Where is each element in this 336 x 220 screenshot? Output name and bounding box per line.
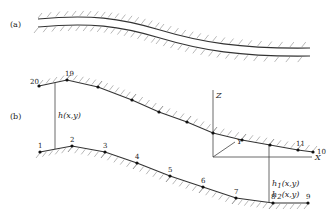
svg-text:h1(x,y): h1(x,y) [272, 179, 299, 190]
mesh-node [306, 201, 309, 204]
mesh-node [130, 98, 133, 101]
node-label: 1 [38, 142, 42, 150]
mesh-node [268, 143, 271, 146]
node-label: 6 [201, 177, 206, 185]
mesh-node [201, 185, 204, 188]
aperture-label: h(x,y) [58, 111, 81, 120]
mesh-node [65, 78, 68, 81]
lower-surface-hatching [36, 147, 308, 209]
mesh-node [70, 144, 73, 147]
node-label: 4 [135, 153, 140, 161]
panel-a-label: (a) [10, 20, 21, 29]
mesh-node [157, 110, 160, 113]
node-label: 19 [65, 70, 74, 78]
z-axis-label: Z [215, 91, 222, 100]
node-label: 9 [306, 193, 310, 201]
mesh-node [311, 150, 314, 153]
node-label: 7 [234, 188, 238, 196]
mesh-node [240, 138, 243, 141]
node-label: 2 [70, 136, 74, 144]
mesh-node [211, 131, 214, 134]
mesh-node [168, 174, 171, 177]
node-label: 5 [168, 166, 172, 174]
node-label: 8 [271, 193, 275, 201]
y-axis [213, 142, 235, 157]
mesh-node [271, 201, 274, 204]
svg-text:h2(x,y): h2(x,y) [272, 190, 299, 201]
node-label: 10 [317, 148, 326, 156]
wall-hatching [34, 11, 306, 62]
fracture-diagram: (a) (b) h(x,y) Z X Y h1(x,y) h2(x,y) 201… [0, 0, 336, 220]
mesh-node [185, 120, 188, 123]
h1-label: h1(x,y) [272, 179, 299, 190]
node-label: 3 [103, 142, 107, 150]
lower-wall-curve [38, 25, 310, 56]
mesh-node [135, 161, 138, 164]
mesh-node [296, 148, 299, 151]
node-label: 20 [30, 78, 39, 86]
mesh-node [103, 150, 106, 153]
mesh-node [234, 196, 237, 199]
mesh-node [38, 150, 41, 153]
panel-b-label: (b) [10, 112, 21, 121]
node-label: 11 [296, 140, 305, 148]
mesh-node [96, 85, 99, 88]
lower-surface-polyline [40, 146, 308, 203]
h2-label: h2(x,y) [272, 190, 299, 201]
smooth-fracture [34, 11, 310, 62]
